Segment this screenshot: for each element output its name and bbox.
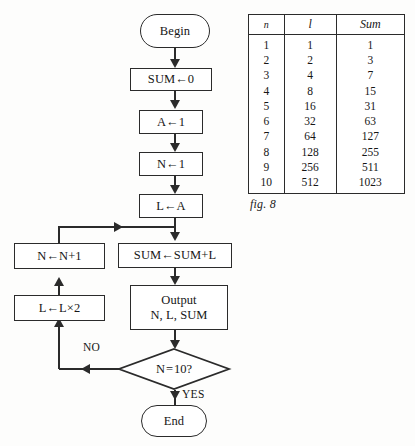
cell-sum: 15	[336, 83, 404, 98]
arrowhead-n-init-to-l-assign	[170, 185, 180, 194]
cell-sum: 63	[336, 113, 404, 128]
cell-l: 64	[284, 129, 336, 144]
cell-l: 32	[284, 113, 336, 128]
arrowhead-begin-to-sum-init	[170, 59, 180, 68]
column-header-sum: Sum	[336, 15, 404, 35]
edge-label-no: NO	[83, 341, 100, 353]
table-row: 3 4 7	[249, 68, 405, 83]
node-a-init-label: A←1	[157, 115, 185, 129]
values-table: n l Sum 1 1 1 2 2 3 3 4 7 4 8	[248, 14, 405, 194]
table-row: 5 16 31	[249, 98, 405, 113]
table-row: 1 1 1	[249, 35, 405, 53]
node-output: Output N, L, SUM	[130, 285, 228, 330]
cell-n: 1	[249, 35, 285, 53]
cell-l: 8	[284, 83, 336, 98]
node-sum-init: SUM←0	[130, 68, 212, 91]
node-l-assign-label: L←A	[156, 199, 185, 213]
cell-sum: 1	[336, 35, 404, 53]
cell-l: 512	[284, 175, 336, 194]
node-output-label: Output N, L, SUM	[150, 293, 207, 322]
cell-n: 4	[249, 83, 285, 98]
cell-sum: 1023	[336, 175, 404, 194]
node-l-double-label: L←L×2	[39, 301, 81, 315]
cell-n: 9	[249, 159, 285, 174]
column-header-l: l	[284, 15, 336, 35]
edge-label-yes: YES	[182, 388, 205, 400]
connector-no-branch-vertical	[58, 320, 60, 369]
values-table-body: 1 1 1 2 2 3 3 4 7 4 8 15 5 16 31	[249, 35, 405, 194]
arrowhead-l-assign-to-sum-update	[170, 232, 180, 241]
cell-n: 6	[249, 113, 285, 128]
cell-n: 7	[249, 129, 285, 144]
node-a-init: A←1	[139, 110, 203, 134]
cell-sum: 7	[336, 68, 404, 83]
arrowhead-no-branch	[81, 364, 90, 374]
arrowhead-a-init-to-n-init	[170, 143, 180, 152]
cell-sum: 3	[336, 52, 404, 67]
values-table-header-row: n l Sum	[249, 15, 405, 35]
table-row: 10 512 1023	[249, 175, 405, 194]
table-row: 4 8 15	[249, 83, 405, 98]
node-l-double: L←L×2	[14, 295, 105, 321]
arrowhead-yes-branch	[170, 391, 180, 400]
cell-sum: 31	[336, 98, 404, 113]
arrowhead-l-double-to-n-increment	[54, 277, 64, 286]
decision-diamond-shape	[118, 348, 230, 390]
node-l-assign: L←A	[139, 194, 203, 218]
arrowhead-sum-update-to-output	[170, 276, 180, 285]
table-row: 9 256 511	[249, 159, 405, 174]
node-n-increment: N←N+1	[14, 243, 105, 269]
column-header-n: n	[249, 15, 285, 35]
node-begin: Begin	[140, 14, 210, 48]
node-n-init-label: N←1	[157, 157, 185, 171]
table-row: 7 64 127	[249, 129, 405, 144]
table-row: 6 32 63	[249, 113, 405, 128]
cell-l: 16	[284, 98, 336, 113]
node-end: End	[141, 405, 207, 437]
node-sum-init-label: SUM←0	[148, 72, 194, 86]
cell-l: 2	[284, 52, 336, 67]
cell-sum: 511	[336, 159, 404, 174]
figure-caption: fig. 8	[250, 197, 276, 212]
node-end-label: End	[164, 414, 184, 428]
node-sum-update-label: SUM←SUM+L	[134, 248, 216, 262]
node-decision: N = 10?	[118, 348, 230, 390]
flowchart-figure-page: Begin SUM←0 A←1 N←1 L←A SUM←SUM+L Output…	[0, 0, 415, 446]
cell-n: 10	[249, 175, 285, 194]
table-row: 2 2 3	[249, 52, 405, 67]
node-n-init: N←1	[139, 152, 203, 176]
cell-n: 2	[249, 52, 285, 67]
node-sum-update: SUM←SUM+L	[118, 243, 232, 268]
node-n-increment-label: N←N+1	[37, 249, 81, 263]
arrowhead-sum-init-to-a-init	[170, 100, 180, 109]
cell-l: 1	[284, 35, 336, 53]
cell-n: 5	[249, 98, 285, 113]
arrowhead-loop-return	[114, 222, 123, 232]
cell-l: 4	[284, 68, 336, 83]
cell-n: 3	[249, 68, 285, 83]
cell-sum: 255	[336, 144, 404, 159]
cell-n: 8	[249, 144, 285, 159]
cell-l: 256	[284, 159, 336, 174]
node-begin-label: Begin	[160, 24, 190, 38]
cell-sum: 127	[336, 129, 404, 144]
values-table-head: n l Sum	[249, 15, 405, 35]
table-row: 8 128 255	[249, 144, 405, 159]
cell-l: 128	[284, 144, 336, 159]
